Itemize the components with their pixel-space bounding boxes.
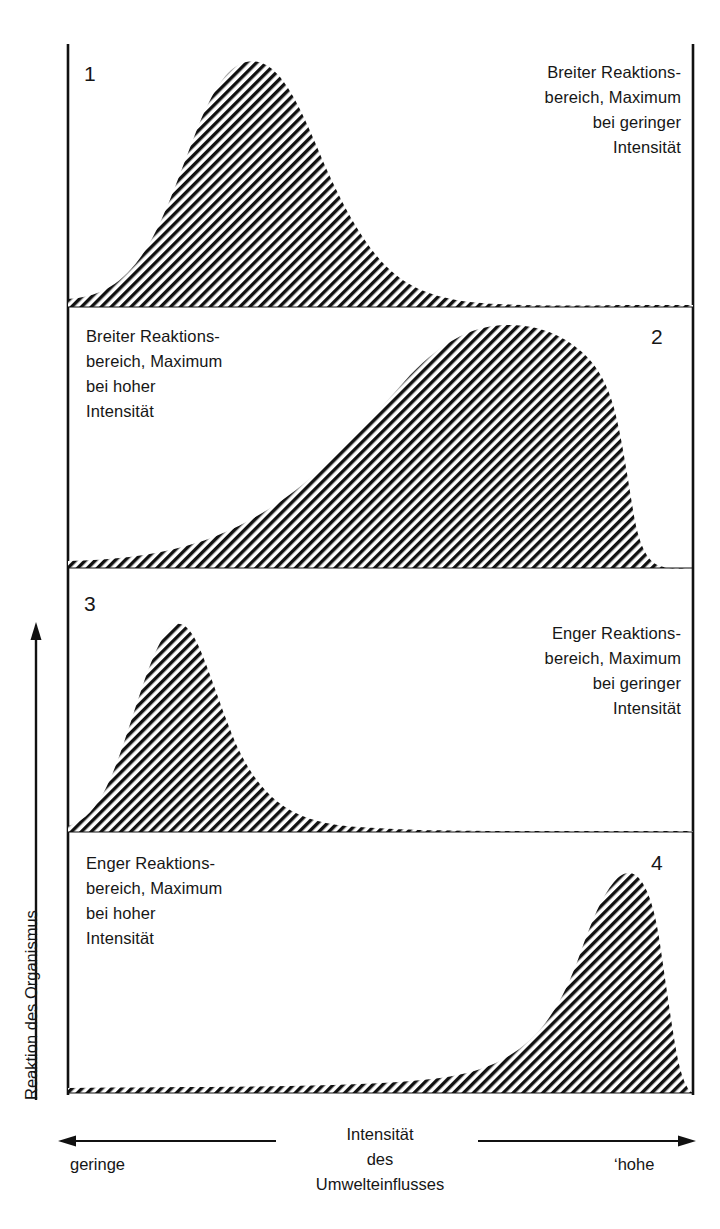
panel-3-caption: Enger Reaktions- bereich, Maximum bei ge… xyxy=(413,621,681,721)
panel-4-caption: Enger Reaktions- bereich, Maximum bei ho… xyxy=(86,851,376,951)
x-axis-low-arrow xyxy=(58,1136,276,1147)
x-axis-caption: Intensität des Umwelteinflusses xyxy=(290,1122,470,1197)
x-axis-low-label: geringe xyxy=(70,1155,125,1174)
x-axis-high-arrow xyxy=(478,1136,696,1147)
figure-root: 1 2 3 4 Breiter Reaktions- bereich, Maxi… xyxy=(0,0,720,1229)
y-axis-label: Reaktion des Organismus xyxy=(22,910,41,1100)
panel-1-caption: Breiter Reaktions- bereich, Maximum bei … xyxy=(413,60,681,160)
panel-4-number: 4 xyxy=(651,851,663,875)
panel-1-number: 1 xyxy=(84,62,96,86)
response-curves-figure xyxy=(0,0,720,1229)
panel-2-caption: Breiter Reaktions- bereich, Maximum bei … xyxy=(86,324,376,424)
x-axis-high-label: ʻhohe xyxy=(614,1155,654,1174)
panel-3-number: 3 xyxy=(84,592,96,616)
panel-2-number: 2 xyxy=(651,325,663,349)
